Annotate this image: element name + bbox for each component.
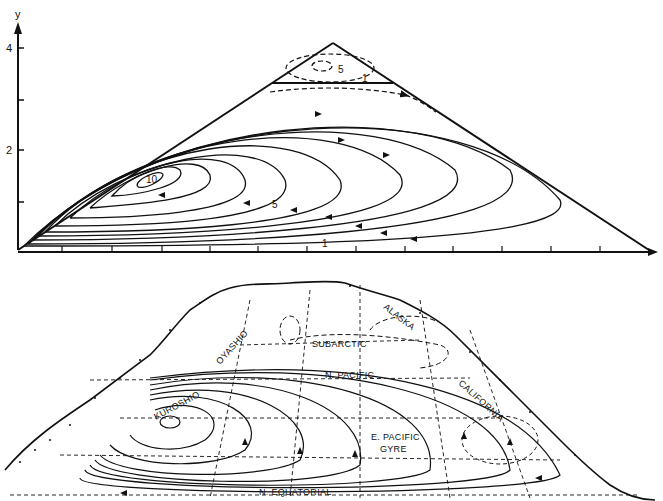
label-e-pacific: E. PACIFIC: [371, 432, 420, 442]
contour-label-5: 5: [272, 199, 278, 210]
label-kuroshio: KUROSHIO: [152, 389, 201, 421]
x-axis: [18, 246, 658, 256]
figure-canvas: y 4 2: [0, 0, 663, 501]
y-axis-arrow-icon: [14, 22, 22, 34]
label-n-pacific: N. PACIFIC: [325, 370, 375, 380]
contour-label-upper-5: 5: [338, 64, 344, 75]
top-panel: y 4 2: [6, 8, 658, 256]
contour-label-1: 1: [322, 238, 328, 249]
label-california: CALIFORNIA: [457, 378, 506, 424]
y-axis: y 4 2: [6, 8, 24, 250]
e-pacific-gyre-outline: [462, 416, 538, 464]
subtropical-gyre: [80, 370, 560, 492]
label-gyre: GYRE: [380, 444, 407, 454]
contour-label-10: 10: [146, 174, 158, 185]
label-subarctic: SUBARCTIC: [312, 339, 367, 349]
y-tick-2: 2: [6, 144, 12, 156]
label-oyashio: OYASHIO: [214, 328, 250, 366]
coastline: [5, 281, 655, 500]
y-tick-4: 4: [6, 42, 12, 54]
main-gyre-streamlines: [24, 127, 561, 246]
label-n-equatorial: N. EQUATORIAL: [259, 487, 332, 497]
triangle-basin: [18, 43, 652, 252]
y-axis-label: y: [15, 8, 21, 20]
bottom-panel-map: KUROSHIO OYASHIO SUBARCTIC ALASKA N. PAC…: [5, 281, 655, 500]
contour-label-upper-1: 1: [362, 73, 368, 84]
